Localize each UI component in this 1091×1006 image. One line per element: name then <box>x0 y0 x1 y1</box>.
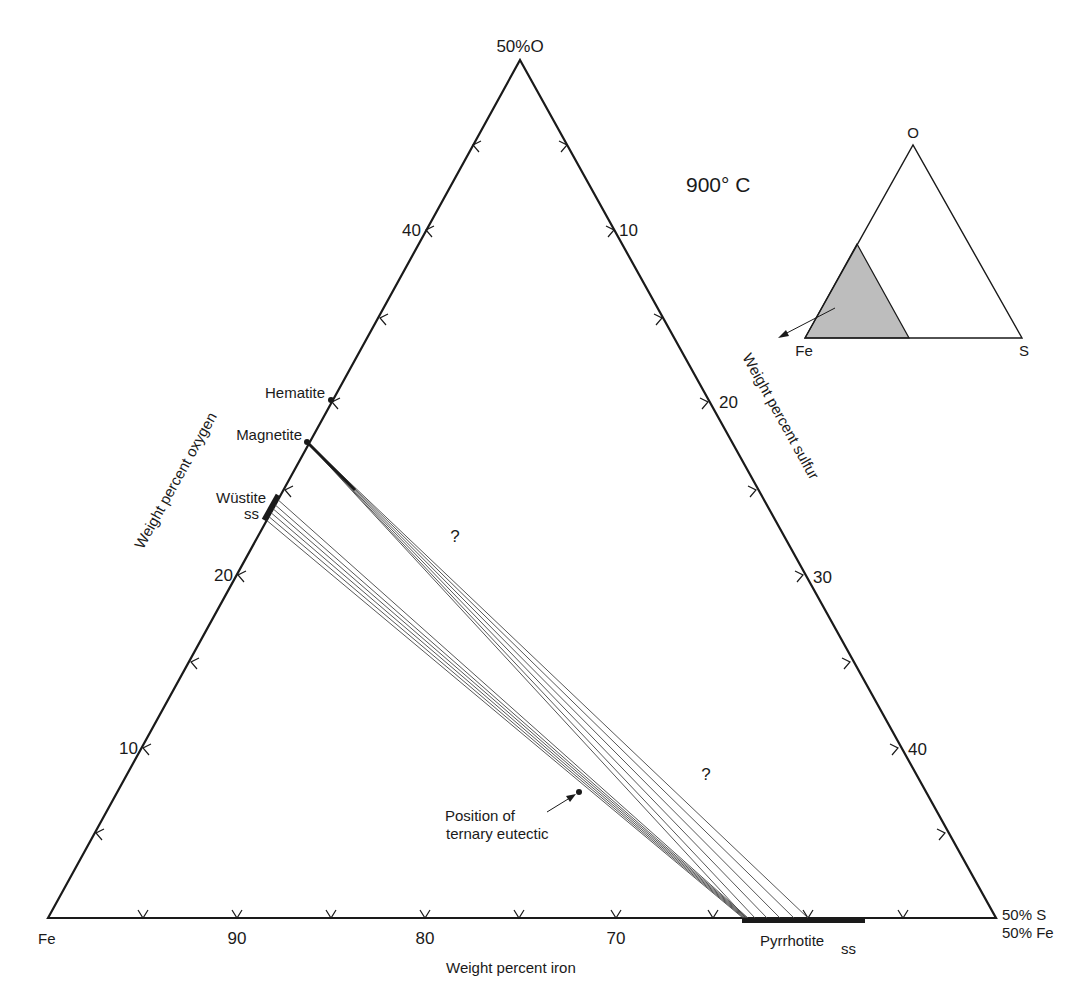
pyrrhotite-label: Pyrrhotite <box>760 932 824 949</box>
hematite-point <box>328 397 334 403</box>
right-tick-30: 30 <box>813 568 832 587</box>
eutectic-label-line1: Position of <box>445 807 516 824</box>
inset-label-s: S <box>1019 342 1029 359</box>
bottom-tick-80: 80 <box>416 929 435 948</box>
right-axis-ticks <box>559 141 945 840</box>
hematite-label: Hematite <box>265 384 325 401</box>
main-triangle <box>48 60 996 918</box>
left-axis-ticks <box>96 141 481 840</box>
bottom-tick-70: 70 <box>607 929 626 948</box>
inset-diagram: O Fe S <box>778 124 1029 359</box>
magnetite-tie-bundle <box>307 442 355 490</box>
right-corner-label-fe: 50% Fe <box>1002 924 1054 941</box>
wustite-label: Wüstite <box>216 489 266 506</box>
right-tick-20: 20 <box>719 393 738 412</box>
left-tick-20: 20 <box>214 566 233 585</box>
eutectic-point <box>576 789 582 795</box>
right-tick-40: 40 <box>908 740 927 759</box>
left-axis-title: Weight percent oxygen <box>131 409 220 551</box>
ternary-phase-diagram: 50%O Fe 50% S 50% Fe 90 80 70 Weight per… <box>0 0 1091 1006</box>
right-tick-10: 10 <box>619 221 638 240</box>
temperature-label: 900° C <box>686 173 750 196</box>
wustite-ss-subscript: ss <box>244 505 259 522</box>
inset-label-o: O <box>907 124 919 141</box>
pyrrhotite-ss-bar <box>742 918 865 923</box>
magnetite-point <box>304 439 310 445</box>
unknown-region-1: ? <box>450 527 459 546</box>
fe-corner-label: Fe <box>38 930 56 947</box>
left-tick-40: 40 <box>402 221 421 240</box>
magnetite-label: Magnetite <box>236 426 302 443</box>
left-tick-10: 10 <box>119 739 138 758</box>
magnetite-tie-lines <box>307 442 808 918</box>
apex-label: 50%O <box>496 37 543 56</box>
wustite-tie-lines <box>265 498 748 918</box>
right-corner-label-s: 50% S <box>1002 906 1046 923</box>
eutectic-arrow-head <box>566 794 576 802</box>
bottom-axis-title: Weight percent iron <box>446 959 576 976</box>
bottom-tick-90: 90 <box>228 929 247 948</box>
right-axis-title: Weight percent sulfur <box>739 350 822 482</box>
eutectic-label-line2: ternary eutectic <box>446 825 549 842</box>
unknown-region-2: ? <box>701 765 710 784</box>
inset-arrow-head <box>778 330 789 338</box>
inset-label-fe: Fe <box>795 342 813 359</box>
inset-shaded-region <box>805 244 909 338</box>
pyrrhotite-ss-subscript: ss <box>841 940 856 957</box>
wustite-ss-bar <box>264 495 278 520</box>
